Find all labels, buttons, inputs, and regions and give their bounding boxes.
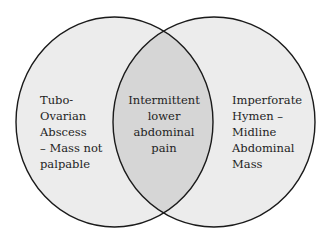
right-label-line: Midline [232, 124, 302, 140]
intersection-label: Intermittent lower abdominal pain [120, 92, 208, 156]
left-set-label: Tubo- Ovarian Abscess – Mass not palpabl… [40, 92, 102, 172]
right-label-line: Hymen – [232, 108, 302, 124]
left-label-line: Ovarian [40, 108, 102, 124]
intersection-label-line: Intermittent [120, 92, 208, 108]
intersection-label-line: pain [120, 140, 208, 156]
right-label-line: Mass [232, 156, 302, 172]
intersection-label-line: abdominal [120, 124, 208, 140]
right-set-label: Imperforate Hymen – Midline Abdominal Ma… [232, 92, 302, 172]
left-label-line: Abscess [40, 124, 102, 140]
right-label-line: Imperforate [232, 92, 302, 108]
left-label-line: Tubo- [40, 92, 102, 108]
right-label-line: Abdominal [232, 140, 302, 156]
left-label-line: – Mass not [40, 140, 102, 156]
left-label-line: palpable [40, 156, 102, 172]
intersection-label-line: lower [120, 108, 208, 124]
